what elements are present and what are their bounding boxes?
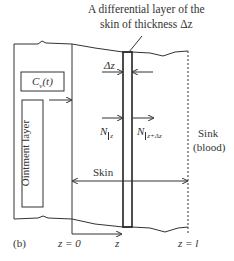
title-pointer bbox=[129, 36, 142, 52]
differential-layer bbox=[123, 52, 132, 227]
delta-z-label: Δz bbox=[104, 59, 115, 71]
bottom-boundary bbox=[14, 216, 188, 232]
skin-label: Skin bbox=[93, 166, 113, 178]
z-axis-label: z bbox=[115, 237, 119, 249]
flux-out-label: Nz+Δz bbox=[137, 125, 162, 142]
concentration-label: Cv(t) bbox=[32, 75, 53, 92]
z-l-label: z = l bbox=[178, 237, 198, 249]
flux-in-label: Nz bbox=[100, 125, 113, 142]
sink-sublabel: (blood) bbox=[193, 141, 225, 153]
top-boundary bbox=[14, 41, 188, 56]
title-line-1: A differential layer of the bbox=[88, 3, 205, 15]
title-line-2: skin of thickness Δz bbox=[100, 18, 193, 30]
panel-label: (b) bbox=[13, 237, 26, 249]
sink-label: Sink bbox=[198, 127, 218, 139]
ointment-layer-label: Ointment layer bbox=[19, 114, 31, 192]
z-zero-label: z = 0 bbox=[58, 237, 81, 249]
